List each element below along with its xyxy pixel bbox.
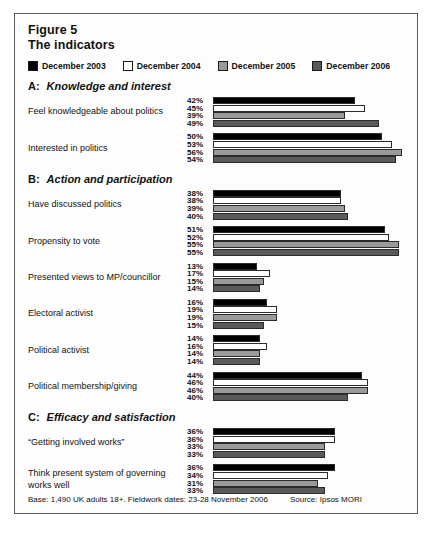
chart-bar-line: 55% (187, 241, 417, 248)
chart-row-bars: 44%46%46%40% (187, 372, 417, 402)
chart-row-label: Have discussed politics (15, 199, 187, 211)
chart-bar (213, 436, 335, 443)
chart-bar (213, 480, 318, 487)
chart-section: A:Knowledge and interestFeel knowledgeab… (15, 80, 417, 164)
chart-bar (213, 299, 267, 306)
footer-base-note: Base: 1,490 UK adults 18+. Fieldwork dat… (28, 495, 268, 504)
chart-bar (213, 343, 267, 350)
chart-bar-line: 52% (187, 234, 417, 241)
section-header: A:Knowledge and interest (15, 80, 417, 92)
chart-bar-line: 46% (187, 379, 417, 386)
chart-bar (213, 226, 385, 233)
chart-bar-line: 15% (187, 322, 417, 329)
chart-bar-value: 34% (187, 472, 213, 479)
chart-bar-value: 54% (187, 156, 213, 163)
figure-number: Figure 5 (28, 23, 417, 38)
chart-bar (213, 372, 362, 379)
chart-row: Propensity to vote51%52%55%55% (15, 226, 417, 256)
section-letter: A: (28, 80, 40, 92)
chart-bar-line: 40% (187, 213, 417, 220)
chart-row-bars: 14%16%14%14% (187, 335, 417, 365)
chart-bar (213, 472, 328, 479)
chart-bar-line: 39% (187, 112, 417, 119)
chart-bar (213, 451, 325, 458)
legend-label: December 2005 (232, 61, 296, 71)
chart-bar (213, 379, 368, 386)
chart-row: Think present system of governing works … (15, 464, 417, 494)
chart-row: Presented views to MP/councillor13%17%15… (15, 263, 417, 293)
chart-row-label: Electoral activist (15, 308, 187, 320)
chart-row-label: Propensity to vote (15, 236, 187, 248)
chart-bar (213, 197, 341, 204)
chart-bar-line: 19% (187, 314, 417, 321)
chart-legend: December 2003December 2004December 2005D… (15, 52, 417, 71)
chart-row: Political activist14%16%14%14% (15, 335, 417, 365)
chart-row: Electoral activist16%19%19%15% (15, 299, 417, 329)
chart-bar-line: 44% (187, 372, 417, 379)
chart-bar (213, 156, 396, 163)
chart-bar-value: 55% (187, 249, 213, 256)
figure-subtitle: The indicators (28, 38, 417, 53)
chart-bar (213, 443, 325, 450)
section-title: Efficacy and satisfaction (47, 411, 176, 423)
figure-title-block: Figure 5 The indicators (15, 14, 417, 52)
chart-bar-line: 15% (187, 278, 417, 285)
chart-bar (213, 205, 345, 212)
legend-label: December 2004 (137, 61, 201, 71)
chart-bar-line: 51% (187, 226, 417, 233)
chart-row-bars: 13%17%15%14% (187, 263, 417, 293)
chart-bar-line: 16% (187, 343, 417, 350)
chart-bar (213, 314, 277, 321)
chart-bar-line: 14% (187, 350, 417, 357)
chart-bar (213, 487, 325, 494)
chart-row-label: Presented views to MP/councillor (15, 272, 187, 284)
chart-bar-line: 38% (187, 190, 417, 197)
chart-bar-line: 54% (187, 156, 417, 163)
chart-row-bars: 36%34%31%33% (187, 464, 417, 494)
chart-bar-line: 14% (187, 335, 417, 342)
chart-bar (213, 358, 260, 365)
chart-bar-line: 55% (187, 249, 417, 256)
chart-row: Have discussed politics38%38%39%40% (15, 190, 417, 220)
legend-label: December 2003 (42, 61, 106, 71)
chart-bar-line: 33% (187, 451, 417, 458)
chart-row-bars: 16%19%19%15% (187, 299, 417, 329)
chart-bar (213, 350, 260, 357)
footer-source: Source: Ipsos MORI (290, 495, 362, 504)
chart-row-bars: 42%45%39%49% (187, 97, 417, 127)
legend-item: December 2003 (28, 61, 106, 71)
chart-bar-line: 19% (187, 306, 417, 313)
chart-bar-value: 36% (187, 428, 213, 435)
sections-container: A:Knowledge and interestFeel knowledgeab… (15, 80, 417, 495)
chart-bar-value: 40% (187, 394, 213, 401)
chart-bar-value: 15% (187, 322, 213, 329)
chart-bar (213, 112, 345, 119)
chart-bar-line: 39% (187, 205, 417, 212)
legend-item: December 2004 (123, 61, 201, 71)
chart-bar-line: 14% (187, 358, 417, 365)
chart-row: Feel knowledgeable about politics42%45%3… (15, 97, 417, 127)
chart-bar-line: 38% (187, 197, 417, 204)
legend-swatch-icon (123, 61, 133, 71)
chart-row-label: Political activist (15, 345, 187, 357)
legend-swatch-icon (28, 61, 38, 71)
legend-label: December 2006 (326, 61, 390, 71)
chart-bar-value: 53% (187, 141, 213, 148)
chart-bar (213, 105, 365, 112)
chart-row-label: Think present system of governing works … (15, 468, 187, 491)
legend-swatch-icon (218, 61, 228, 71)
chart-section: C:Efficacy and satisfaction“Getting invo… (15, 411, 417, 495)
chart-bar-line: 36% (187, 436, 417, 443)
chart-row-label: Feel knowledgeable about politics (15, 106, 187, 118)
figure-frame: Figure 5 The indicators December 2003Dec… (14, 13, 418, 514)
chart-bar (213, 213, 348, 220)
chart-bar-line: 53% (187, 141, 417, 148)
chart-bar-line: 34% (187, 472, 417, 479)
chart-row-label: Political membership/giving (15, 381, 187, 393)
chart-bar-value: 42% (187, 97, 213, 104)
chart-bar-line: 46% (187, 387, 417, 394)
legend-item: December 2005 (218, 61, 296, 71)
chart-bar (213, 249, 399, 256)
chart-bar-value: 33% (187, 451, 213, 458)
chart-bar (213, 141, 392, 148)
